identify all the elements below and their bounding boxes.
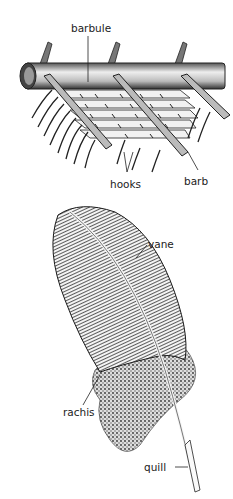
label-quill: quill [144, 461, 166, 473]
barb-detail-illustration [20, 36, 230, 172]
label-barbule: barbule [71, 22, 111, 34]
label-rachis: rachis [63, 406, 95, 418]
feather-illustration [53, 207, 200, 492]
feather-diagram: barbule hooks barb vane rachis quill [0, 0, 233, 499]
label-vane: vane [148, 238, 174, 250]
label-barb: barb [184, 175, 208, 187]
label-hooks: hooks [110, 178, 141, 190]
